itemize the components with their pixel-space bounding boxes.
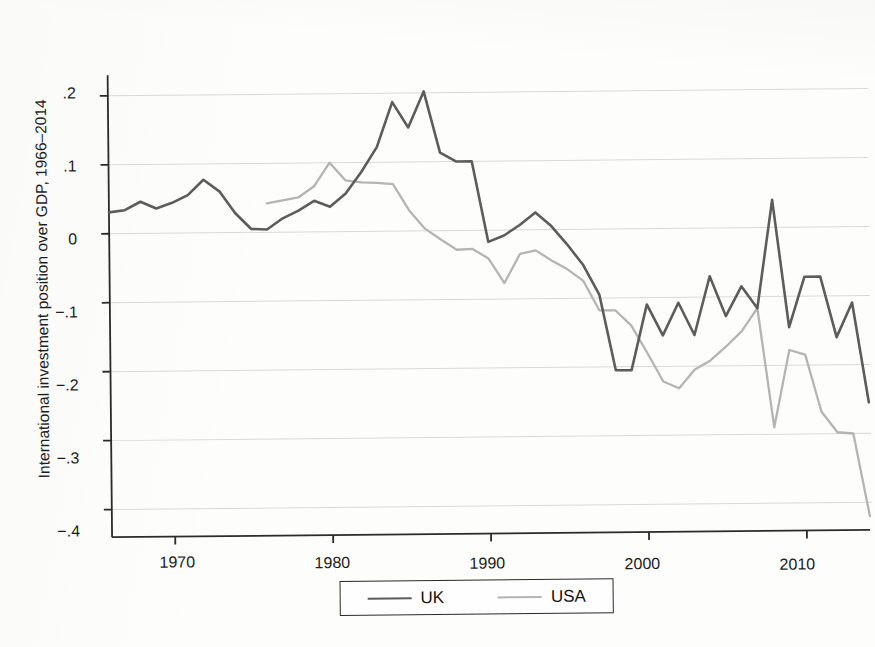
legend-entry-usa[interactable]: USA — [498, 586, 586, 607]
gridlines — [108, 89, 872, 510]
gridline-y-4 — [110, 364, 870, 371]
chart-legend[interactable]: UK USA — [340, 578, 614, 616]
legend-entry-uk[interactable]: UK — [367, 587, 444, 608]
gridline-y-5 — [111, 433, 871, 440]
axis-lines — [108, 68, 870, 537]
series-line-uk — [108, 87, 869, 409]
line-swatch-usa-icon — [498, 596, 542, 598]
gridline-y-1 — [108, 158, 868, 165]
chart-figure: International investment position over G… — [0, 0, 875, 647]
legend-label-usa: USA — [551, 586, 586, 606]
gridline-y-2 — [109, 226, 869, 233]
gridline-y-6 — [112, 502, 872, 509]
gridline-y-0 — [108, 89, 868, 96]
line-swatch-uk-icon — [368, 597, 412, 599]
legend-label-uk: UK — [420, 587, 444, 607]
series-line-usa — [266, 158, 869, 522]
x-tick-marks — [175, 530, 807, 544]
gridline-y-3 — [110, 295, 870, 302]
plot-area — [0, 0, 875, 647]
data-series-layer — [108, 87, 870, 523]
